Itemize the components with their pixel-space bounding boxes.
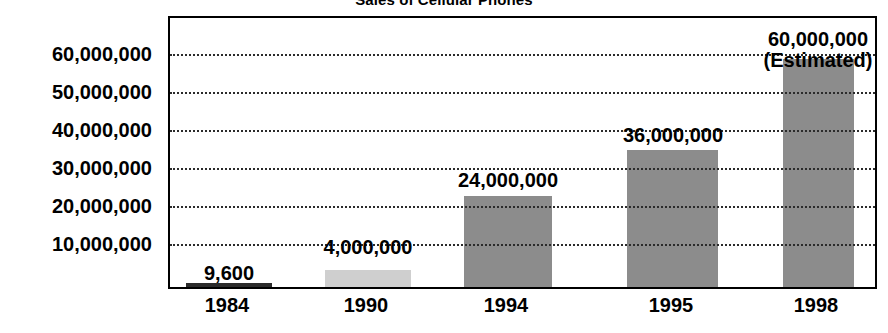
- x-axis-tick-labels: 1984 1990 1994 1995 1998: [168, 295, 877, 331]
- gridline-50m: [170, 92, 875, 94]
- y-tick-label: 30,000,000: [2, 158, 152, 178]
- x-tick-label-1990: 1990: [344, 295, 389, 315]
- bar-1995[interactable]: [627, 150, 718, 287]
- y-tick-label: 10,000,000: [2, 234, 152, 254]
- y-tick-label: 50,000,000: [2, 82, 152, 102]
- gridline-40m: [170, 130, 875, 132]
- y-axis-tick-labels: 60,000,000 50,000,000 40,000,000 30,000,…: [0, 0, 160, 333]
- x-tick-label-1995: 1995: [649, 295, 694, 315]
- plot-area: 9,600 4,000,000 24,000,000 36,000,000 60…: [168, 16, 877, 289]
- bar-1984[interactable]: [186, 283, 272, 287]
- bars-layer: [170, 18, 875, 287]
- x-tick-label-1994: 1994: [484, 295, 529, 315]
- y-tick-label: 20,000,000: [2, 196, 152, 216]
- x-tick-label-1998: 1998: [794, 295, 839, 315]
- y-tick-label: 40,000,000: [2, 120, 152, 140]
- bar-1990[interactable]: [325, 270, 411, 287]
- gridline-10m: [170, 244, 875, 246]
- bar-chart: Sales of Cellular Phones 60,000,000 50,0…: [0, 0, 888, 333]
- y-tick-label: 60,000,000: [2, 44, 152, 64]
- bar-1994[interactable]: [464, 196, 552, 287]
- gridline-20m: [170, 206, 875, 208]
- gridline-60m: [170, 54, 875, 56]
- gridline-30m: [170, 168, 875, 170]
- x-tick-label-1984: 1984: [205, 295, 250, 315]
